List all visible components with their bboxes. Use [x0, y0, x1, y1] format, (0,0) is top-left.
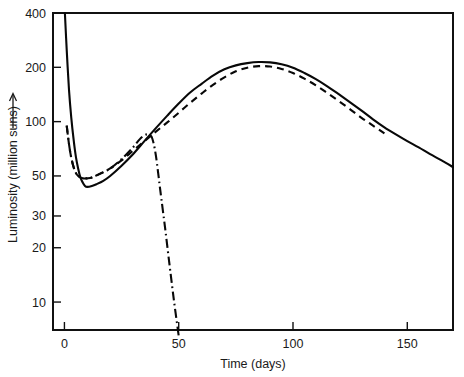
luminosity-vs-time-chart: 10203050100200400 050100150 Luminosity (… [0, 0, 464, 377]
y-tick-label-400: 400 [25, 7, 46, 21]
x-axis-ticks [64, 322, 407, 330]
plot-frame [53, 13, 453, 330]
y-axis-tick-labels: 10203050100200400 [25, 7, 46, 310]
y-tick-label-10: 10 [32, 296, 46, 310]
x-axis-tick-labels: 050100150 [61, 337, 418, 351]
y-axis-ticks [53, 13, 61, 302]
y-tick-label-100: 100 [25, 115, 46, 129]
x-axis-title: Time (days) [220, 357, 286, 371]
solid-light-curve [65, 13, 453, 187]
y-axis-title-group: Luminosity (million suns) [6, 94, 20, 244]
x-tick-label-0: 0 [61, 337, 68, 351]
dash-dot-light-curve [67, 126, 179, 336]
y-tick-label-50: 50 [32, 169, 46, 183]
x-tick-label-100: 100 [283, 337, 304, 351]
x-tick-label-50: 50 [172, 337, 186, 351]
dashed-light-curve [67, 66, 385, 178]
chart-figure: 10203050100200400 050100150 Luminosity (… [0, 0, 464, 377]
x-tick-label-150: 150 [397, 337, 418, 351]
y-tick-label-30: 30 [32, 209, 46, 223]
y-tick-label-200: 200 [25, 61, 46, 75]
y-tick-label-20: 20 [32, 241, 46, 255]
